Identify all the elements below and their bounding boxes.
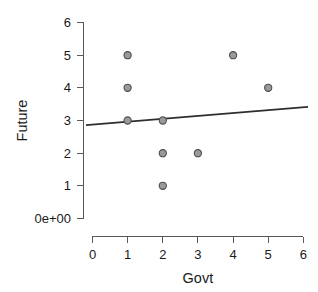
plot-canvas: 6 5 4 3 2 1 0e+00 0 1 2 3 4 5 6 Govt Fut… [0,0,318,292]
y-tick-label-5: 5 [64,48,71,63]
data-point [124,117,131,124]
data-point [124,52,131,59]
data-point [159,182,166,189]
x-tick-label-2: 2 [159,247,166,262]
x-tick-label-1: 1 [124,247,131,262]
y-tick-label-2: 2 [64,146,71,161]
data-point [230,52,237,59]
x-tick-label-5: 5 [265,247,272,262]
data-point [265,84,272,91]
data-point [194,150,201,157]
y-tick-label-4: 4 [64,80,71,95]
y-axis-title: Future [14,100,30,142]
data-point [124,84,131,91]
x-tick-labels: 0 1 2 3 4 5 6 [89,247,307,262]
data-point [159,117,166,124]
x-tick-label-0: 0 [89,247,96,262]
y-axis-ticks [77,23,84,219]
x-tick-label-6: 6 [300,247,307,262]
x-axis-title: Govt [183,270,214,286]
x-tick-label-4: 4 [229,247,236,262]
y-tick-labels: 6 5 4 3 2 1 0e+00 [34,15,71,226]
y-tick-label-1: 1 [64,178,71,193]
trend-line [86,107,308,125]
x-axis-ticks [93,237,304,244]
scatter-plot-figure: 6 5 4 3 2 1 0e+00 0 1 2 3 4 5 6 Govt Fut… [0,0,318,292]
y-tick-label-0: 0e+00 [34,211,71,226]
x-tick-label-3: 3 [194,247,201,262]
data-point [159,150,166,157]
y-tick-label-6: 6 [64,15,71,30]
y-tick-label-3: 3 [64,113,71,128]
